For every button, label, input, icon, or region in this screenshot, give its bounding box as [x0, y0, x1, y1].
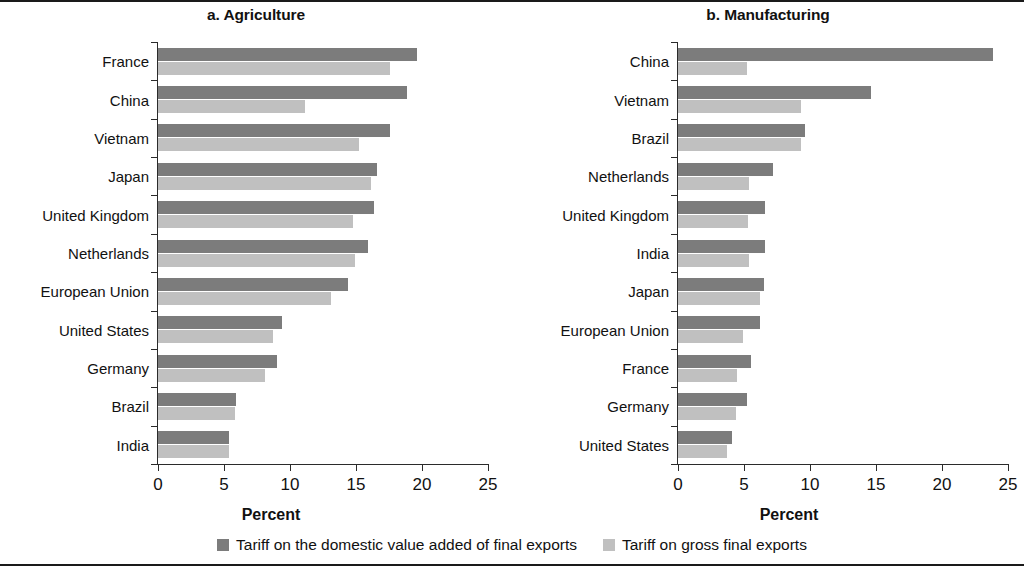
bar — [158, 431, 229, 444]
bar — [158, 330, 273, 343]
bar — [158, 177, 371, 190]
y-axis-category-label: Vietnam — [449, 93, 669, 108]
bar — [678, 355, 751, 368]
bar — [678, 138, 801, 151]
bar — [678, 177, 749, 190]
bar — [678, 445, 727, 458]
x-axis-tick — [744, 464, 745, 471]
y-axis-tick — [151, 195, 158, 196]
x-axis-tick — [942, 464, 943, 471]
x-axis-tick-label: 5 — [724, 475, 764, 495]
y-axis-category-label: Brazil — [0, 399, 149, 414]
bar — [678, 100, 801, 113]
bar — [678, 201, 765, 214]
y-axis-category-label: Brazil — [449, 131, 669, 146]
y-axis-tick — [151, 464, 158, 465]
legend-item-gross-final-exports: Tariff on gross final exports — [603, 536, 807, 554]
y-axis-category-label: China — [0, 93, 149, 108]
bar — [158, 278, 348, 291]
y-axis-category-label: Japan — [449, 284, 669, 299]
bar — [158, 240, 368, 253]
y-axis-tick — [671, 234, 678, 235]
y-axis-tick — [671, 464, 678, 465]
y-axis-category-label: France — [0, 54, 149, 69]
bar — [158, 124, 390, 137]
y-axis-tick — [671, 426, 678, 427]
bar — [678, 254, 749, 267]
chart-legend: Tariff on the domestic value added of fi… — [0, 536, 1024, 554]
bar — [678, 292, 760, 305]
x-axis-tick — [422, 464, 423, 471]
x-axis-title-manufacturing: Percent — [512, 506, 1024, 524]
y-axis-tick — [151, 234, 158, 235]
y-axis-tick — [151, 80, 158, 81]
y-axis-tick — [151, 42, 158, 43]
plot-area-agriculture: 0510152025FranceChinaVietnamJapanUnited … — [158, 42, 488, 464]
y-axis-tick — [671, 349, 678, 350]
y-axis-tick — [671, 311, 678, 312]
y-axis-tick — [671, 80, 678, 81]
y-axis-tick — [671, 42, 678, 43]
y-axis-category-label: Netherlands — [0, 246, 149, 261]
x-axis-tick — [488, 464, 489, 471]
panel-manufacturing: b. Manufacturing 0510152025ChinaVietnamB… — [512, 0, 1024, 530]
legend-item-domestic-value-added: Tariff on the domestic value added of fi… — [217, 536, 577, 554]
x-axis-tick — [290, 464, 291, 471]
bar — [158, 48, 417, 61]
x-axis-title-agriculture: Percent — [0, 506, 512, 524]
bar — [678, 369, 737, 382]
y-axis-tick — [151, 272, 158, 273]
y-axis-category-label: Japan — [0, 169, 149, 184]
y-axis-tick — [151, 387, 158, 388]
legend-label-gross-final-exports: Tariff on gross final exports — [622, 536, 807, 554]
x-axis-tick — [356, 464, 357, 471]
y-axis-category-label: China — [449, 54, 669, 69]
bar — [678, 407, 736, 420]
panel-agriculture: a. Agriculture 0510152025FranceChinaViet… — [0, 0, 512, 530]
bar — [158, 254, 355, 267]
y-axis-category-label: United Kingdom — [449, 208, 669, 223]
y-axis-category-label: European Union — [449, 323, 669, 338]
plot-area-manufacturing: 0510152025ChinaVietnamBrazilNetherlandsU… — [678, 42, 1008, 464]
x-axis-tick — [1008, 464, 1009, 471]
y-axis-tick — [671, 272, 678, 273]
y-axis-category-label: United Kingdom — [0, 208, 149, 223]
legend-label-domestic-value-added: Tariff on the domestic value added of fi… — [236, 536, 577, 554]
x-axis-tick-label: 25 — [988, 475, 1024, 495]
bar — [678, 48, 993, 61]
bar — [158, 163, 377, 176]
x-axis-line — [157, 464, 488, 465]
x-axis-tick-label: 10 — [270, 475, 310, 495]
x-axis-tick-label: 0 — [658, 475, 698, 495]
y-axis-category-label: France — [449, 361, 669, 376]
y-axis-category-label: India — [449, 246, 669, 261]
x-axis-tick-label: 20 — [402, 475, 442, 495]
y-axis-tick — [151, 311, 158, 312]
bar — [158, 292, 331, 305]
y-axis-category-label: United States — [449, 438, 669, 453]
y-axis-category-label: United States — [0, 323, 149, 338]
bar — [158, 316, 282, 329]
x-axis-tick — [678, 464, 679, 471]
x-axis-line — [677, 464, 1008, 465]
bar — [678, 393, 747, 406]
bar — [158, 369, 265, 382]
bar — [158, 100, 305, 113]
y-axis-tick — [671, 157, 678, 158]
bar — [158, 201, 374, 214]
x-axis-tick-label: 0 — [138, 475, 178, 495]
y-axis-category-label: India — [0, 438, 149, 453]
y-axis-tick — [671, 119, 678, 120]
x-axis-tick-label: 5 — [204, 475, 244, 495]
bar — [678, 163, 773, 176]
bar — [678, 86, 871, 99]
panel-title-agriculture: a. Agriculture — [0, 6, 512, 24]
y-axis-tick — [151, 119, 158, 120]
legend-swatch-icon-light — [603, 539, 615, 551]
y-axis-category-label: European Union — [0, 284, 149, 299]
x-axis-tick-label: 25 — [468, 475, 508, 495]
bar — [678, 62, 747, 75]
y-axis-category-label: Netherlands — [449, 169, 669, 184]
x-axis-tick — [158, 464, 159, 471]
legend-swatch-icon-dark — [217, 539, 229, 551]
